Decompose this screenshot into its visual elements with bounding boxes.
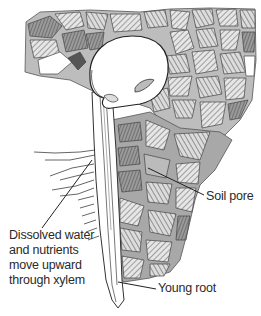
label-xylem-line-1: Dissolved water — [9, 228, 94, 243]
label-soil-pore: Soil pore — [206, 189, 254, 204]
leader-young-root — [118, 282, 156, 289]
label-xylem-line-2: and nutrients — [9, 243, 94, 258]
label-xylem-transport: Dissolved water and nutrients move upwar… — [9, 228, 94, 288]
seed-root-soil-diagram: Soil pore Dissolved water and nutrients … — [0, 0, 261, 316]
label-xylem-line-4: through xylem — [9, 273, 94, 288]
label-xylem-line-3: move upward — [9, 258, 94, 273]
label-young-root: Young root — [158, 281, 216, 296]
